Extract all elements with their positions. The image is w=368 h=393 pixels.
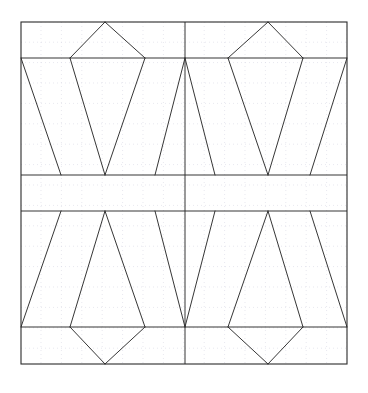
pattern-figure-root xyxy=(0,0,368,393)
pattern-canvas xyxy=(0,0,368,393)
